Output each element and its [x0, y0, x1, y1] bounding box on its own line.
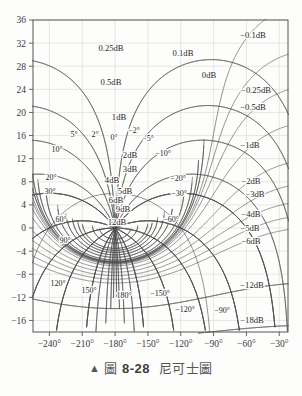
- y-tick-label: 8: [21, 177, 26, 187]
- phase-contour-label: −60°: [163, 215, 179, 224]
- phase-contour-label: 2°: [91, 130, 98, 139]
- phase-contour-label: −120°: [175, 305, 195, 314]
- magnitude-contour-label: −3dB: [245, 189, 264, 199]
- phase-contour-label: 150°: [81, 286, 96, 295]
- x-tick-label: −180°: [103, 339, 127, 349]
- magnitude-contour-label: −4dB: [241, 209, 260, 219]
- magnitude-contour-label: −5dB: [240, 223, 259, 233]
- nichols-chart: 36322824201612840−4−8−12−16 −240°−210°−1…: [0, 0, 302, 356]
- phase-contour-label: 0°: [110, 133, 117, 142]
- magnitude-contour-label: −2dB: [241, 176, 260, 186]
- caption-title: 尼可士圖: [159, 358, 213, 377]
- phase-contour-label: −10°: [155, 149, 171, 158]
- y-tick-label: −8: [16, 270, 26, 280]
- y-tick-label: 24: [17, 85, 27, 95]
- x-tick-label: −210°: [71, 339, 95, 349]
- caption-number: 8-28: [122, 361, 150, 376]
- magnitude-contour-label: −18dB: [240, 315, 264, 325]
- phase-contour-label: −2°: [128, 126, 140, 135]
- magnitude-contour-label: 0.25dB: [98, 43, 123, 53]
- y-tick-label: −12: [11, 293, 26, 303]
- phase-contour-label: −5°: [142, 134, 154, 143]
- magnitude-contour-label: −6dB: [241, 236, 260, 246]
- y-tick-label: 4: [21, 200, 26, 210]
- phase-contour-label: −30°: [171, 189, 187, 198]
- y-tick-label: 16: [17, 131, 27, 141]
- magnitude-contour-label: 1dB: [112, 112, 127, 122]
- phase-contour-label: 60°: [55, 215, 66, 224]
- y-tick-label: 12: [17, 154, 27, 164]
- x-tick-label: −120°: [169, 339, 193, 349]
- magnitude-contour-label: 2dB: [123, 150, 138, 160]
- magnitude-contour-label: 12dB: [108, 217, 127, 227]
- x-tick-label: −150°: [136, 339, 160, 349]
- magnitude-contour-label: −0.25dB: [241, 85, 271, 95]
- y-tick-label: 20: [17, 108, 27, 118]
- phase-contour-label: 120°: [50, 279, 65, 288]
- phase-contour-label: 180°: [116, 291, 131, 300]
- y-tick-label: 32: [17, 39, 27, 49]
- magnitude-contour-label: 4dB: [105, 175, 120, 185]
- y-tick-label: −16: [11, 316, 26, 326]
- phase-contour-label: −150°: [150, 289, 170, 298]
- phase-contour-label: 5°: [70, 130, 77, 139]
- x-tick-label: −90°: [204, 339, 223, 349]
- phase-contour-label: 20°: [45, 173, 56, 182]
- figure-page: 36322824201612840−4−8−12−16 −240°−210°−1…: [0, 0, 302, 396]
- magnitude-contour-label: 0.1dB: [173, 48, 194, 58]
- caption-marker-icon: ▲: [89, 362, 100, 374]
- caption-label: 圖: [104, 358, 118, 377]
- x-tick-label: −60°: [237, 339, 256, 349]
- x-tick-label: −30°: [270, 339, 289, 349]
- magnitude-contour-label: 0.5dB: [101, 77, 122, 87]
- magnitude-contour-label: −12dB: [240, 280, 264, 290]
- magnitude-contour-label: −0.5dB: [240, 102, 266, 112]
- y-tick-label: 28: [17, 62, 27, 72]
- phase-contour-label: 90°: [59, 236, 70, 245]
- magnitude-contour-label: 3dB: [123, 164, 138, 174]
- y-tick-label: 0: [21, 223, 26, 233]
- magnitude-contour-label: 0dB: [202, 70, 217, 80]
- figure-caption: ▲圖8-28尼可士圖: [0, 358, 302, 377]
- x-tick-label: −240°: [38, 339, 62, 349]
- y-tick-label: −4: [16, 247, 26, 257]
- phase-contour-label: −20°: [170, 174, 186, 183]
- phase-contour-label: 10°: [51, 145, 62, 154]
- phase-contour-label: 30°: [44, 187, 55, 196]
- phase-contour-label: −90°: [214, 306, 230, 315]
- nichols-chart-svg: 36322824201612840−4−8−12−16 −240°−210°−1…: [0, 0, 302, 356]
- magnitude-contour-label: −1dB: [240, 140, 259, 150]
- y-tick-label: 36: [17, 15, 27, 25]
- magnitude-contour-label: −0.1dB: [240, 30, 266, 40]
- magnitude-contour-label: 9dB: [116, 204, 131, 214]
